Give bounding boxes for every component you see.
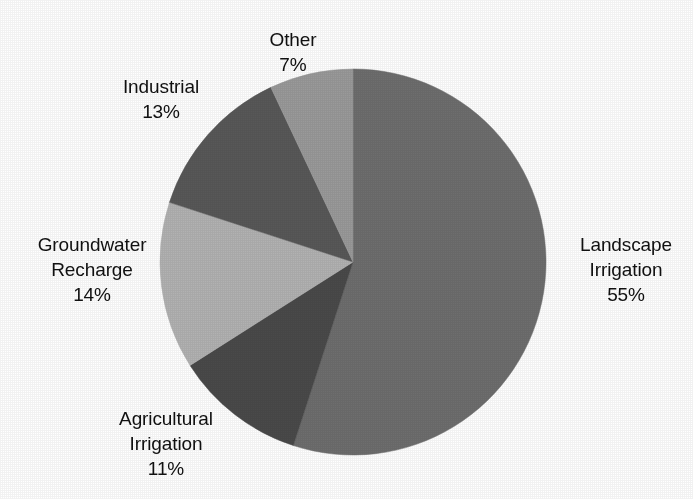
- slice-label-other: Other 7%: [228, 27, 358, 77]
- slice-label-groundwater-recharge-line1: Groundwater: [12, 232, 172, 257]
- slice-label-other-line1: Other: [228, 27, 358, 52]
- slice-label-industrial-line1: Industrial: [86, 74, 236, 99]
- pie-slice-group: [160, 69, 546, 455]
- slice-label-agricultural-irrigation: Agricultural Irrigation 11%: [76, 406, 256, 481]
- slice-value-groundwater-recharge: 14%: [12, 282, 172, 307]
- slice-label-landscape-irrigation: Landscape Irrigation 55%: [556, 232, 693, 307]
- slice-label-industrial: Industrial 13%: [86, 74, 236, 124]
- slice-label-landscape-irrigation-line2: Irrigation: [556, 257, 693, 282]
- slice-value-industrial: 13%: [86, 99, 236, 124]
- pie-chart: Landscape Irrigation 55% Agricultural Ir…: [0, 0, 693, 499]
- slice-label-landscape-irrigation-line1: Landscape: [556, 232, 693, 257]
- slice-label-agricultural-irrigation-line2: Irrigation: [76, 431, 256, 456]
- slice-label-groundwater-recharge: Groundwater Recharge 14%: [12, 232, 172, 307]
- slice-value-other: 7%: [228, 52, 358, 77]
- slice-value-landscape-irrigation: 55%: [556, 282, 693, 307]
- slice-label-agricultural-irrigation-line1: Agricultural: [76, 406, 256, 431]
- slice-label-groundwater-recharge-line2: Recharge: [12, 257, 172, 282]
- slice-value-agricultural-irrigation: 11%: [76, 456, 256, 481]
